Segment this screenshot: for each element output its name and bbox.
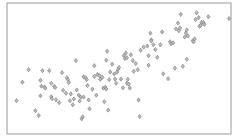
- data-point: [34, 109, 37, 113]
- data-point: [15, 99, 18, 103]
- data-point: [105, 58, 108, 62]
- data-point: [146, 44, 149, 48]
- data-point: [147, 63, 150, 67]
- data-point: [179, 12, 182, 16]
- data-point: [154, 47, 157, 51]
- data-point: [82, 95, 85, 99]
- data-point: [93, 74, 96, 78]
- data-point: [37, 113, 40, 117]
- data-point: [39, 78, 42, 82]
- data-point: [166, 77, 169, 81]
- data-point: [72, 97, 75, 101]
- data-point: [111, 62, 114, 66]
- data-point: [86, 83, 89, 87]
- data-point: [113, 77, 116, 81]
- data-point: [39, 94, 42, 98]
- data-point: [126, 77, 129, 81]
- data-point: [69, 92, 72, 96]
- data-point: [91, 87, 94, 91]
- data-point: [227, 16, 230, 20]
- data-point: [131, 59, 134, 63]
- scatter-chart: [0, 0, 232, 139]
- data-point: [95, 93, 98, 97]
- data-point: [142, 45, 145, 49]
- data-point: [159, 43, 162, 47]
- data-point: [109, 70, 112, 74]
- data-point: [27, 68, 30, 72]
- data-point: [138, 114, 141, 118]
- data-point: [75, 88, 78, 92]
- data-point: [40, 84, 43, 88]
- data-point: [137, 98, 140, 102]
- data-point: [134, 61, 137, 65]
- data-point: [88, 107, 91, 111]
- data-point: [57, 101, 60, 105]
- data-point: [107, 78, 110, 82]
- data-point: [105, 49, 108, 53]
- data-point: [129, 53, 132, 57]
- data-point: [173, 66, 176, 70]
- data-point: [176, 21, 179, 25]
- data-point: [121, 86, 124, 90]
- data-point: [152, 43, 155, 47]
- data-point: [64, 91, 67, 95]
- data-point: [128, 86, 131, 90]
- data-point: [195, 11, 198, 15]
- data-point: [68, 99, 71, 103]
- data-point: [185, 57, 188, 61]
- data-point: [114, 81, 117, 85]
- data-point: [194, 18, 197, 22]
- data-point: [162, 72, 165, 76]
- data-point: [149, 31, 152, 35]
- data-point: [119, 77, 122, 81]
- data-point: [136, 68, 139, 72]
- data-point: [139, 48, 142, 52]
- data-point: [41, 69, 44, 73]
- data-point: [87, 98, 90, 102]
- data-point: [160, 30, 163, 34]
- data-point: [93, 64, 96, 68]
- data-point: [103, 100, 106, 104]
- data-point: [181, 64, 184, 68]
- data-point: [54, 98, 57, 102]
- data-point: [147, 54, 150, 58]
- data-point: [156, 55, 159, 59]
- data-point: [48, 69, 51, 73]
- data-point: [21, 80, 24, 84]
- data-point: [207, 15, 210, 19]
- data-point: [74, 59, 77, 63]
- data-point: [50, 81, 53, 85]
- data-point: [197, 15, 200, 19]
- data-points: [15, 11, 231, 121]
- data-point: [71, 103, 74, 107]
- data-point: [60, 70, 63, 74]
- data-point: [132, 69, 135, 73]
- data-point: [61, 88, 64, 92]
- data-point: [107, 108, 110, 112]
